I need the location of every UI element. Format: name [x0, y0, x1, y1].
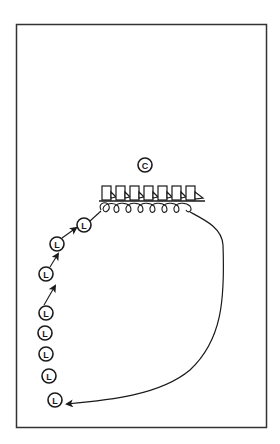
coach-label: C [142, 161, 149, 171]
player-arrow [44, 286, 55, 305]
player-marker: L [42, 369, 56, 383]
player-arrow [50, 254, 58, 267]
hurdle [130, 186, 144, 200]
player-marker: L [77, 218, 91, 232]
drill-diagram: C L L L L L L L L [0, 0, 280, 444]
entry-line [90, 211, 101, 221]
return-path [67, 212, 223, 404]
coach-marker: C [138, 158, 152, 172]
player-marker: L [48, 393, 62, 407]
hurdle [172, 186, 186, 200]
player-marker: L [39, 306, 53, 320]
hurdle [186, 186, 203, 200]
hurdle [116, 186, 130, 200]
hurdle [158, 186, 172, 200]
player-marker: L [50, 237, 64, 251]
player-line: L L L L L L L L [38, 218, 91, 407]
svg-text:L: L [46, 372, 52, 382]
hurdle [102, 186, 116, 200]
svg-text:L: L [43, 270, 49, 280]
hurdle-row [99, 186, 205, 201]
player-arrow [62, 228, 76, 238]
svg-text:L: L [52, 396, 58, 406]
svg-text:L: L [43, 350, 49, 360]
player-marker: L [39, 267, 53, 281]
svg-text:L: L [54, 240, 60, 250]
field-frame [17, 25, 267, 428]
svg-text:L: L [81, 221, 87, 231]
hurdle [144, 186, 158, 200]
player-marker: L [39, 347, 53, 361]
svg-text:L: L [42, 329, 48, 339]
svg-text:L: L [43, 309, 49, 319]
player-marker: L [38, 326, 52, 340]
weave-path [100, 203, 191, 213]
